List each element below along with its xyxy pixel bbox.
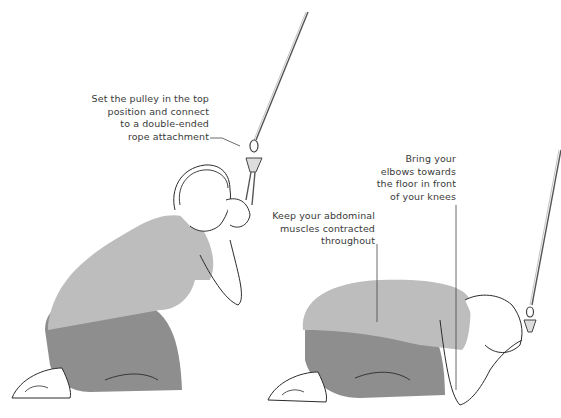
annotation-abdominal: Keep your abdominal muscles contracted t… [272,210,375,248]
annotation-elbows: Bring your elbows towards the floor in f… [377,153,456,203]
shoe-outline [12,368,71,398]
callout-leader-pulley [210,138,240,146]
rope-attachment-icon [246,140,262,205]
shoe-outline-2 [268,372,327,402]
cable-line-2 [532,150,561,305]
exercise-illustration [0,0,561,418]
rope-attachment-icon-2 [524,307,536,332]
shirt-shape [48,215,213,330]
cable-line [256,12,308,140]
figure-start-position [12,12,308,398]
annotation-pulley-setup: Set the pulley in the top position and c… [92,93,209,143]
